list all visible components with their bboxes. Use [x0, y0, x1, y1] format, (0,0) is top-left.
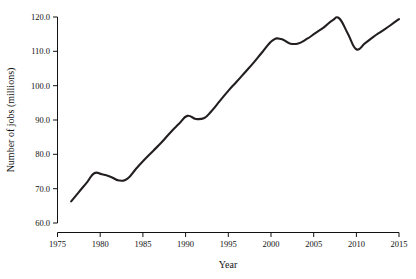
x-tick-label: 1990 — [177, 239, 194, 249]
y-tick-label: 80.0 — [35, 149, 50, 159]
y-tick-labels: 120.0 110.0 100.0 90.0 80.0 70.0 60.0 — [31, 12, 50, 228]
y-axis-group: 120.0 110.0 100.0 90.0 80.0 70.0 60.0 Nu… — [5, 12, 58, 228]
y-tick-label: 90.0 — [35, 115, 50, 125]
x-tick-label: 2015 — [391, 239, 408, 249]
x-tick-labels: 1975 1980 1985 1990 1995 2000 2005 2010 … — [49, 239, 408, 249]
y-tick-label: 60.0 — [35, 218, 50, 228]
y-tick-marks — [53, 17, 58, 223]
x-tick-label: 2005 — [305, 239, 322, 249]
y-tick-label: 120.0 — [31, 12, 50, 22]
x-tick-marks — [58, 233, 400, 238]
x-tick-label: 1980 — [92, 239, 109, 249]
x-tick-label: 1975 — [49, 239, 66, 249]
x-tick-label: 1995 — [220, 239, 237, 249]
y-tick-label: 110.0 — [31, 46, 50, 56]
line-chart: 120.0 110.0 100.0 90.0 80.0 70.0 60.0 Nu… — [0, 0, 416, 279]
data-series-line — [71, 17, 399, 201]
chart-svg: 120.0 110.0 100.0 90.0 80.0 70.0 60.0 Nu… — [0, 0, 416, 279]
x-tick-label: 2000 — [263, 239, 280, 249]
y-axis-title: Number of jobs (millions) — [5, 68, 17, 173]
y-tick-label: 70.0 — [35, 184, 50, 194]
x-tick-label: 2010 — [348, 239, 365, 249]
x-axis-group: 1975 1980 1985 1990 1995 2000 2005 2010 … — [49, 233, 408, 271]
y-tick-label: 100.0 — [31, 81, 50, 91]
x-tick-label: 1985 — [134, 239, 151, 249]
x-axis-title: Year — [219, 259, 238, 270]
